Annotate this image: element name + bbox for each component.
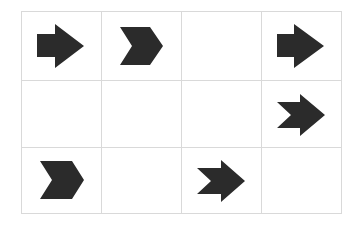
chevron-right-icon xyxy=(40,161,84,199)
chevron-right-icon xyxy=(120,27,163,65)
arrow-grid-puzzle xyxy=(0,0,356,227)
notched-arrow-right-icon xyxy=(277,94,325,136)
notched-arrow-right-icon xyxy=(197,160,245,202)
block-arrow-right-icon xyxy=(37,24,84,68)
block-arrow-right-icon xyxy=(277,24,324,68)
